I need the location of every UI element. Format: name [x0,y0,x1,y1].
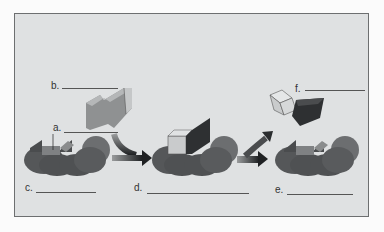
enzyme-c [24,134,110,176]
label-e: e. [275,185,283,195]
diagram-art [0,0,384,232]
blank-e[interactable] [287,194,353,195]
enzyme-substrate-complex-d [152,118,238,176]
label-a: a. [53,123,61,133]
blank-d[interactable] [147,193,249,194]
substrate-b [86,88,132,130]
label-b: b. [51,81,59,91]
release-arrow [237,131,273,167]
product-dark [292,98,324,126]
product-light [270,90,296,115]
blank-f[interactable] [305,90,365,91]
binding-arrow [112,134,152,166]
label-f: f. [295,84,301,94]
enzyme-e [275,136,359,176]
blank-a[interactable] [64,132,118,133]
blank-c[interactable] [36,192,96,193]
label-d: d. [134,183,142,193]
label-c: c. [25,183,33,193]
blank-b[interactable] [62,88,118,89]
